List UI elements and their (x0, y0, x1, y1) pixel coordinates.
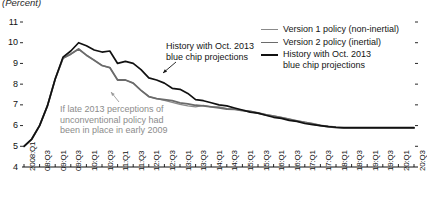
y-tick-8: 8 (2, 79, 18, 89)
x-tick-17-Q1: 17:Q1 (308, 150, 317, 171)
x-tick-16-Q3: 16:Q3 (293, 150, 302, 171)
x-tick-2008-Q1: 2008:Q1 (28, 142, 37, 171)
legend-item-0: Version 1 policy (non-inertial) (261, 24, 419, 35)
counterfactual-annotation: If late 2013 perceptions of unconvention… (60, 104, 168, 136)
y-tick-9: 9 (2, 58, 18, 68)
y-tick-11: 11 (2, 17, 18, 27)
history-annotation-line1: History with Oct. 2013 (166, 41, 254, 52)
x-tick-15-Q3: 15:Q3 (262, 150, 271, 171)
history-annotation-line2: blue chip projections (166, 52, 254, 63)
y-tick-7: 7 (2, 99, 18, 109)
x-tick-18-Q1: 18:Q1 (340, 150, 349, 171)
legend-swatch-0 (261, 29, 278, 30)
counterfactual-annotation-line1: If late 2013 perceptions of (60, 104, 168, 115)
x-tick-10-Q1: 10:Q1 (90, 150, 99, 171)
x-tick-13-Q3: 13:Q3 (199, 150, 208, 171)
x-tick-12-Q3: 12:Q3 (168, 150, 177, 171)
y-tick-4: 4 (2, 162, 18, 172)
x-tick-16-Q1: 16:Q1 (277, 150, 286, 171)
x-tick-20-Q3: 20:Q3 (418, 150, 427, 171)
y-tick-10: 10 (2, 37, 18, 47)
legend-item-1: Version 2 policy (inertial) (261, 37, 419, 48)
x-tick-09-Q1: 09:Q1 (59, 150, 68, 171)
x-tick-13-Q1: 13:Q1 (184, 150, 193, 171)
chart-legend: Version 1 policy (non-inertial)Version 2… (261, 24, 419, 72)
x-tick-08-Q3: 08:Q3 (43, 150, 52, 171)
x-tick-15-Q1: 15:Q1 (246, 150, 255, 171)
legend-label-0: Version 1 policy (non-inertial) (283, 24, 399, 35)
legend-label-2-line1: History with Oct. 2013 (283, 49, 371, 60)
x-tick-09-Q3: 09:Q3 (74, 150, 83, 171)
x-tick-12-Q1: 12:Q1 (152, 150, 161, 171)
x-tick-14-Q3: 14:Q3 (230, 150, 239, 171)
x-tick-11-Q1: 11:Q1 (121, 151, 130, 171)
y-tick-6: 6 (2, 120, 18, 130)
legend-label-2-line2: blue chip projections (283, 60, 371, 71)
history-annotation: History with Oct. 2013 blue chip project… (166, 41, 254, 62)
x-tick-20-Q1: 20:Q1 (402, 150, 411, 171)
counterfactual-annotation-line3: been in place in early 2009 (60, 125, 168, 136)
x-tick-19-Q1: 19:Q1 (371, 150, 380, 171)
legend-label-1: Version 2 policy (inertial) (283, 37, 381, 48)
x-tick-14-Q1: 14:Q1 (215, 150, 224, 171)
x-tick-19-Q3: 19:Q3 (386, 150, 395, 171)
x-tick-17-Q3: 17:Q3 (324, 150, 333, 171)
x-tick-10-Q3: 10:Q3 (106, 150, 115, 171)
legend-item-2: History with Oct. 2013blue chip projecti… (261, 49, 419, 70)
x-tick-18-Q3: 18:Q3 (355, 150, 364, 171)
counterfactual-annotation-line2: unconventional policy had (60, 115, 168, 126)
legend-swatch-2 (261, 54, 278, 56)
y-tick-5: 5 (2, 141, 18, 151)
legend-swatch-1 (261, 42, 278, 44)
x-tick-11-Q3: 11:Q3 (137, 151, 146, 171)
chart-annotation-pointers (111, 62, 176, 102)
legend-label-2: History with Oct. 2013blue chip projecti… (283, 49, 371, 70)
